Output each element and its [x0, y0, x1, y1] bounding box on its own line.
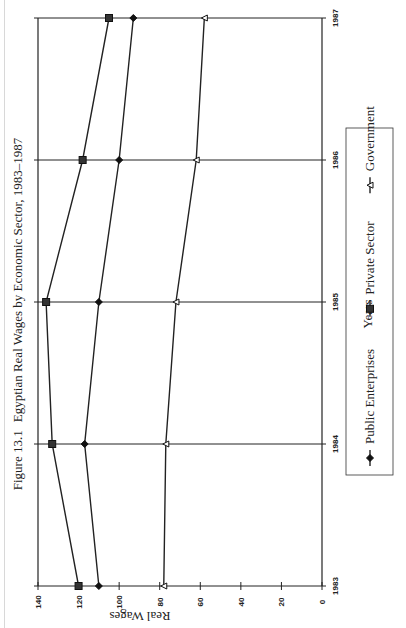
value-tick-label-80: 80	[156, 597, 165, 606]
figure-label: Figure 13.1	[10, 430, 25, 490]
ylabel-group: Real Wages	[109, 609, 170, 624]
y-axis-title: Real Wages	[109, 609, 170, 624]
year-tick-label-1983: 1983	[331, 577, 340, 595]
year-tick-label-1986: 1986	[331, 151, 340, 169]
value-tick-label-20: 20	[277, 597, 286, 606]
figure-title: Figure 13.1Egyptian Real Wages by Econom…	[10, 137, 25, 490]
point-public-enterprises-1985	[95, 299, 102, 306]
figure-title-group: Figure 13.1Egyptian Real Wages by Econom…	[10, 137, 25, 490]
legend-item-government: Government	[362, 106, 377, 193]
point-private-sector-1984	[49, 441, 56, 448]
line-chart: Figure 13.1Egyptian Real Wages by Econom…	[0, 0, 406, 628]
plot-area	[34, 18, 326, 586]
value-tick-label-140: 140	[34, 595, 43, 609]
legend: Public EnterprisesPrivate SectorGovernme…	[346, 106, 393, 475]
point-public-enterprises-1983	[95, 583, 102, 590]
year-tick-label-1985: 1985	[331, 293, 340, 311]
legend-item-public-enterprises: Public Enterprises	[362, 349, 377, 466]
point-private-sector-1986	[79, 157, 86, 164]
year-tick-label-1987: 1987	[331, 9, 340, 27]
year-tick-label-1984: 1984	[331, 435, 340, 453]
legend-label-public-enterprises: Public Enterprises	[362, 349, 377, 444]
value-tick-label-120: 120	[75, 595, 84, 609]
legend-label-government: Government	[362, 106, 377, 171]
xlabel-group: Years	[360, 299, 375, 328]
point-public-enterprises-1984	[81, 441, 88, 448]
value-tick-label-60: 60	[196, 597, 205, 606]
legend-label-private-sector: Private Sector	[362, 221, 377, 295]
figure-title-text: Egyptian Real Wages by Economic Sector, …	[10, 137, 25, 422]
value-tick-label-40: 40	[237, 597, 246, 606]
x-axis-title: Years	[360, 299, 375, 328]
legend-marker-public-enterprises	[367, 455, 374, 462]
value-tick-label-0: 0	[318, 599, 327, 604]
value-tick-label-100: 100	[115, 595, 124, 609]
legend-marker-private-sector	[367, 305, 374, 312]
point-private-sector-1983	[75, 583, 82, 590]
point-public-enterprises-1986	[116, 157, 123, 164]
year-axis-ticks: 19831984198519861987	[331, 9, 340, 595]
point-public-enterprises-1987	[130, 15, 137, 22]
point-private-sector-1985	[43, 299, 50, 306]
point-private-sector-1987	[106, 15, 113, 22]
